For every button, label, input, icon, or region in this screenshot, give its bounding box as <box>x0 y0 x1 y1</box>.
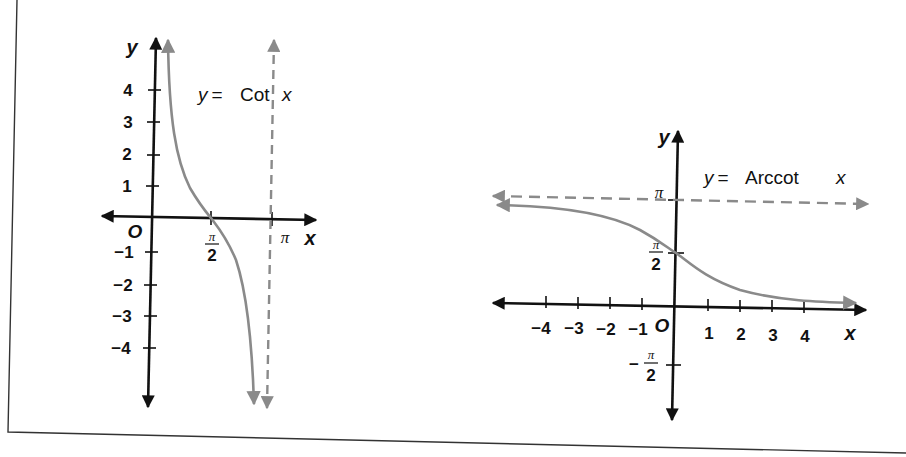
arccot-x-tick-neg2: −2 <box>596 320 615 339</box>
diagram-canvas: 4 3 2 1 −1 −2 −3 −4 y x O π 2 π y= <box>0 0 906 457</box>
arccot-y-axis-label: y <box>657 126 670 148</box>
cot-y-tick-3: 3 <box>123 113 132 132</box>
arccot-y-tick-neg-half-pi-num: π <box>648 347 655 362</box>
arccot-y-axis <box>672 131 678 420</box>
cot-function-name: Cot <box>240 84 270 105</box>
cot-y-tick-neg2: −2 <box>113 276 132 295</box>
arccot-asymptote <box>493 196 868 204</box>
cot-x-axis-label: x <box>303 227 316 249</box>
cot-equation-label: y= <box>196 84 223 105</box>
cot-y-axis <box>148 38 156 407</box>
arccot-x-tick-4: 4 <box>800 327 810 346</box>
cot-y-tick-neg3: −3 <box>112 307 131 326</box>
cot-equation-var: x <box>281 84 293 105</box>
arccot-x-tick-neg1: −1 <box>628 320 647 339</box>
cot-y-tick-neg4: −4 <box>111 339 131 358</box>
cot-x-tick-pi: π <box>281 228 290 247</box>
arccot-x-tick-3: 3 <box>768 326 777 345</box>
arccot-x-axis-label: x <box>843 322 856 344</box>
cot-y-tick-neg1: −1 <box>114 243 133 262</box>
cot-y-tick-4: 4 <box>123 81 133 100</box>
arccot-y-tick-neg-half-pi-den: 2 <box>646 366 655 385</box>
arccot-y-tick-neg-half-pi-sign: − <box>629 355 639 374</box>
arccot-y-tick-half-pi-den: 2 <box>651 255 660 274</box>
cot-x-tick-half-pi-den: 2 <box>207 246 216 265</box>
cot-y-axis-label: y <box>125 36 138 58</box>
arccot-equation-label: y= <box>702 167 729 188</box>
cot-y-tick-2: 2 <box>122 145 131 164</box>
cot-x-tick-half-pi-num: π <box>209 229 216 244</box>
arccot-x-tick-1: 1 <box>704 324 713 343</box>
figure-panel: 4 3 2 1 −1 −2 −3 −4 y x O π 2 π y= <box>0 0 906 457</box>
arccot-x-tick-neg3: −3 <box>564 319 583 338</box>
arccot-function-name: Arccot <box>745 167 800 188</box>
cot-y-tick-1: 1 <box>122 177 131 196</box>
arccot-x-tick-2: 2 <box>736 325 745 344</box>
arccot-equation-var: x <box>835 167 847 188</box>
arccot-graph: −4 −3 −2 −1 1 2 3 4 y x O π π 2 − π 2 y= <box>493 126 868 420</box>
cot-origin-label: O <box>128 221 143 242</box>
arccot-x-tick-neg4: −4 <box>531 319 551 338</box>
arccot-origin-label: O <box>655 315 670 336</box>
arccot-x-axis <box>493 303 866 310</box>
frame-border <box>8 0 906 453</box>
